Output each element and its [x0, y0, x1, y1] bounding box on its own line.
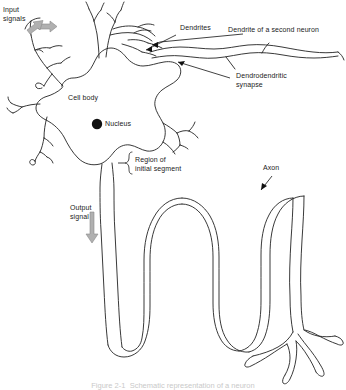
left-lower-dendrite: [7, 97, 53, 165]
label-output-signal: Output signal: [70, 204, 92, 221]
figure-caption: Figure 2-1 Schematic representation of a…: [0, 381, 346, 390]
axon-terminal-arbor: [245, 330, 343, 384]
neuron-drawing: [0, 0, 346, 390]
axon-leader: [261, 176, 272, 190]
cell-body-outline: [36, 48, 181, 165]
right-dendrite-branches: [163, 122, 198, 154]
neuron-diagram-figure: Input signals Dendrites Dendrite of a se…: [0, 0, 346, 390]
initial-segment-bracket: [118, 152, 132, 174]
label-input-signals: Input signals: [3, 6, 26, 23]
label-nucleus: Nucleus: [105, 120, 131, 129]
label-dendrodendritic-synapse: Dendrodendritic synapse: [236, 72, 287, 89]
label-region-initial-segment: Region of initial segment: [135, 156, 181, 173]
nucleus-marker: [92, 119, 102, 129]
label-dendrite-second-neuron: Dendrite of a second neuron: [228, 26, 319, 35]
axon-fiber: [100, 163, 304, 357]
second-neuron-leader: [152, 34, 243, 48]
label-dendrites: Dendrites: [180, 24, 211, 33]
label-axon: Axon: [263, 164, 279, 173]
second-neuron-dendrite: [150, 43, 344, 69]
synapse-leader: [178, 61, 230, 78]
label-cell-body: Cell body: [68, 94, 98, 103]
